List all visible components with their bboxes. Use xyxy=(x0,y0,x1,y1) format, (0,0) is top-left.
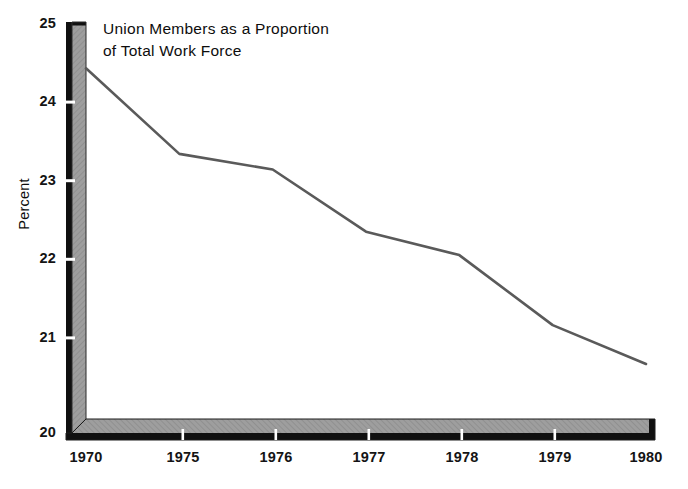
chart-figure: Union Members as a Proportion of Total W… xyxy=(0,0,688,489)
y-tick-label-25: 25 xyxy=(16,15,56,31)
y-axis-beam xyxy=(66,22,86,440)
x-tick-label-1978: 1978 xyxy=(427,449,497,465)
y-tick-label-20: 20 xyxy=(16,424,56,440)
y-tick-label-22: 22 xyxy=(16,250,56,266)
y-tick-label-21: 21 xyxy=(16,329,56,345)
line-chart-canvas xyxy=(0,0,688,489)
y-tick-label-24: 24 xyxy=(16,93,56,109)
x-tick-label-1977: 1977 xyxy=(334,449,404,465)
x-tick-label-1970: 1970 xyxy=(51,449,121,465)
y-tick-label-23: 23 xyxy=(16,172,56,188)
x-tick-label-1980: 1980 xyxy=(611,449,681,465)
x-axis-beam xyxy=(66,419,655,440)
x-tick-label-1979: 1979 xyxy=(520,449,590,465)
x-tick-label-1975: 1975 xyxy=(148,449,218,465)
data-series-line xyxy=(86,68,646,364)
x-tick-label-1976: 1976 xyxy=(241,449,311,465)
chart-title: Union Members as a Proportion of Total W… xyxy=(103,18,433,62)
